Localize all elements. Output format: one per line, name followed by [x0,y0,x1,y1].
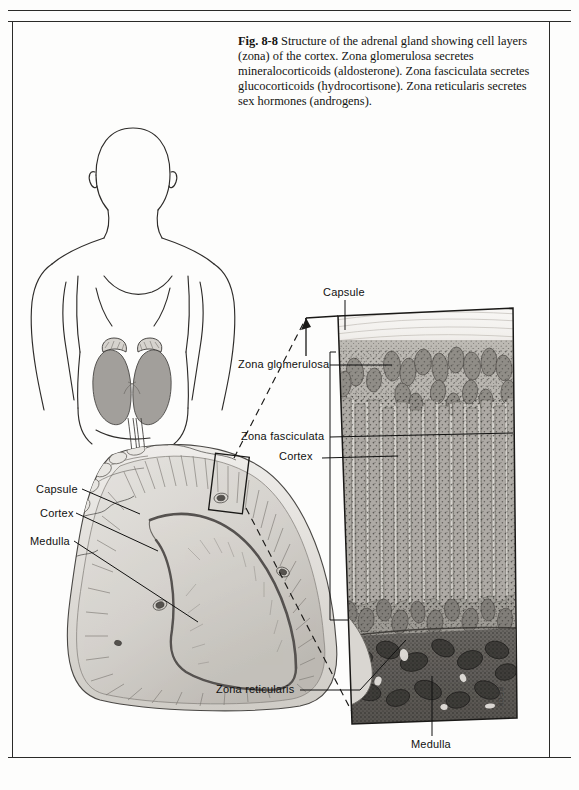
artist-credit: BECK [497,687,504,708]
histo-label-capsule: Capsule [323,286,365,298]
gross-section-artwork [67,444,337,711]
figure-artwork [0,0,579,790]
histo-label-zona-reticularis: Zona reticularis [216,683,294,695]
gross-label-capsule: Capsule [36,483,78,495]
gross-label-medulla: Medulla [30,535,70,547]
histo-label-zona-glomerulosa: Zona glomerulosa [238,358,329,370]
zona-fasciculata-columns [336,396,520,612]
figure-page: Fig. 8-8 Structure of the adrenal gland … [0,0,579,790]
histo-label-cortex: Cortex [279,450,313,462]
histo-label-medulla: Medulla [411,738,451,750]
gross-label-cortex: Cortex [40,507,74,519]
histo-label-zona-fasciculata: Zona fasciculata [241,430,324,442]
